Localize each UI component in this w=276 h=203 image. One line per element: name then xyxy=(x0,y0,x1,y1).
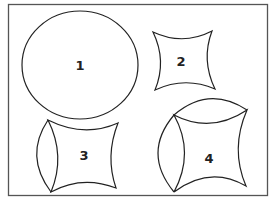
figure-frame xyxy=(9,5,268,196)
shape-1-label: 1 xyxy=(75,58,84,73)
shape-4-left-lens xyxy=(158,115,174,192)
diagram-figure: 1 2 3 4 xyxy=(0,0,276,203)
shape-2-concave-square: 2 xyxy=(153,31,215,90)
shape-1-circle: 1 xyxy=(22,11,138,119)
shape-3-left-lens xyxy=(37,120,51,192)
shape-3-label: 3 xyxy=(79,148,88,163)
diagram-canvas: 1 2 3 4 xyxy=(0,0,276,203)
shape-4-label: 4 xyxy=(204,151,213,166)
shape-3-concave-square-lens: 3 xyxy=(37,120,118,192)
shape-4-concave-square-lenses: 4 xyxy=(158,99,247,192)
shape-4-top-lens xyxy=(174,99,247,115)
shape-2-label: 2 xyxy=(176,54,185,69)
